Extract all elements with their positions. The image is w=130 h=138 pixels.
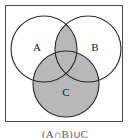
venn-diagram-svg: A B C	[6, 6, 122, 121]
set-label-b: B	[91, 41, 98, 53]
venn-figure: A B C (A∩B)∪C	[0, 0, 130, 138]
set-label-a: A	[33, 41, 41, 53]
figure-caption: (A∩B)∪C	[0, 129, 130, 138]
venn-diagram-frame: A B C	[5, 5, 123, 122]
set-label-c: C	[62, 86, 69, 98]
